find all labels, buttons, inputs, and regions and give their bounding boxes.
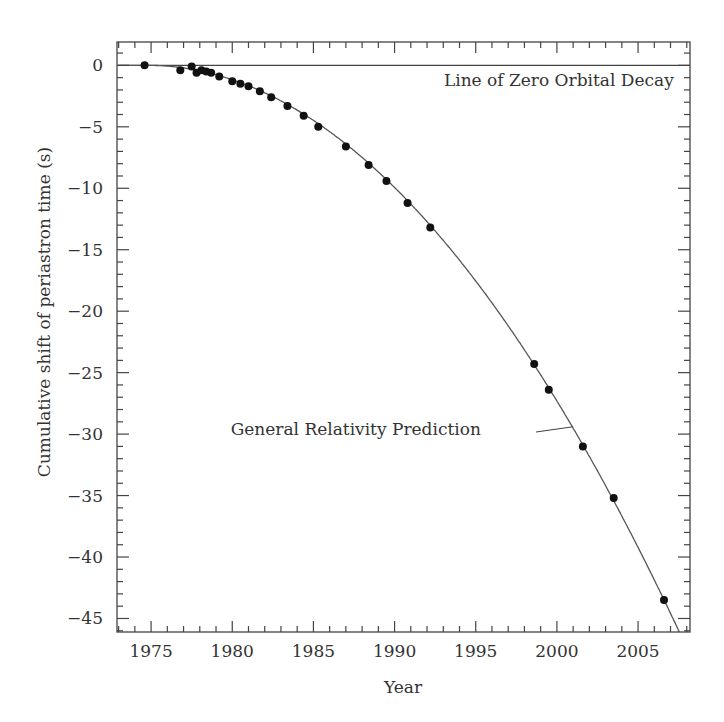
zero-decay-annotation: Line of Zero Orbital Decay <box>444 70 674 90</box>
data-point <box>141 61 149 69</box>
x-tick-label: 1995 <box>454 641 497 661</box>
gr-prediction-annotation: General Relativity Prediction <box>231 419 481 439</box>
data-point <box>545 386 553 394</box>
x-tick-label: 1990 <box>373 641 416 661</box>
y-tick-label: −5 <box>78 117 103 137</box>
data-point <box>610 494 618 502</box>
y-tick-label: −45 <box>67 608 103 628</box>
data-point <box>365 161 373 169</box>
tick-labels: 19751980198519901995200020050−5−10−15−20… <box>67 55 660 661</box>
data-point <box>579 442 587 450</box>
x-tick-label: 1975 <box>129 641 172 661</box>
y-tick-label: −40 <box>67 547 103 567</box>
periastron-shift-chart: 19751980198519901995200020050−5−10−15−20… <box>0 0 724 722</box>
y-tick-label: −35 <box>67 486 103 506</box>
data-point <box>267 93 275 101</box>
data-point <box>314 123 322 131</box>
x-tick-label: 2005 <box>616 641 659 661</box>
x-tick-label: 1985 <box>292 641 335 661</box>
data-point <box>530 360 538 368</box>
data-point <box>382 177 390 185</box>
plot-frame <box>117 42 690 632</box>
data-point <box>660 596 668 604</box>
data-point <box>404 199 412 207</box>
data-point <box>228 77 236 85</box>
data-point <box>215 72 223 80</box>
x-axis-label: Year <box>383 677 423 697</box>
y-tick-label: −20 <box>67 301 103 321</box>
x-tick-label: 2000 <box>535 641 578 661</box>
data-points <box>141 61 668 604</box>
data-point <box>342 142 350 150</box>
data-point <box>236 80 244 88</box>
gr-annotation-pointer <box>536 427 573 432</box>
data-point <box>176 66 184 74</box>
axis-ticks <box>117 42 690 632</box>
data-point <box>426 224 434 232</box>
y-tick-label: −30 <box>67 424 103 444</box>
y-tick-label: −25 <box>67 363 103 383</box>
y-axis-label: Cumulative shift of periastron time (s) <box>34 147 54 477</box>
data-point <box>244 82 252 90</box>
y-tick-label: −10 <box>67 178 103 198</box>
y-tick-label: 0 <box>92 55 103 75</box>
data-point <box>300 112 308 120</box>
y-tick-label: −15 <box>67 240 103 260</box>
x-tick-label: 1980 <box>211 641 254 661</box>
data-point <box>207 69 215 77</box>
gr-prediction-curve <box>119 65 680 632</box>
data-point <box>256 87 264 95</box>
data-point <box>283 102 291 110</box>
